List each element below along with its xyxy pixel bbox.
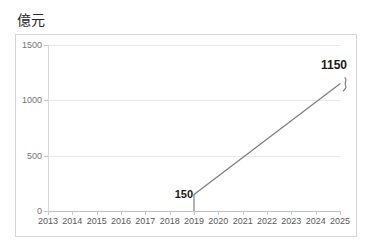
x-tick-mark-2015 — [97, 211, 98, 215]
x-tick-label-2013: 2013 — [38, 216, 58, 226]
x-tick-label-2016: 2016 — [111, 216, 131, 226]
gridline-1000 — [48, 100, 340, 101]
x-tick-mark-2016 — [121, 211, 122, 215]
x-tick-label-2021: 2021 — [233, 216, 253, 226]
x-tick-label-2019: 2019 — [184, 216, 204, 226]
y-tick-label-500: 500 — [0, 151, 42, 161]
y-tick-mark-1000 — [44, 100, 48, 101]
x-tick-label-2020: 2020 — [208, 216, 228, 226]
x-tick-label-2022: 2022 — [257, 216, 277, 226]
y-tick-label-1000: 1000 — [0, 95, 42, 105]
x-tick-mark-2017 — [145, 211, 146, 215]
x-tick-mark-2019 — [194, 211, 195, 215]
x-tick-label-2023: 2023 — [281, 216, 301, 226]
x-tick-mark-2024 — [316, 211, 317, 215]
data-label-end: 1150 — [321, 58, 347, 72]
x-tick-label-2024: 2024 — [306, 216, 326, 226]
y-axis-line — [48, 45, 49, 212]
x-tick-mark-2022 — [267, 211, 268, 215]
x-tick-label-2018: 2018 — [160, 216, 180, 226]
y-axis-unit-label: 億元 — [17, 11, 45, 29]
data-label-start: 150 — [175, 188, 193, 200]
x-tick-mark-2018 — [170, 211, 171, 215]
gridline-500 — [48, 156, 340, 157]
y-tick-mark-500 — [44, 156, 48, 157]
y-tick-mark-1500 — [44, 45, 48, 46]
x-tick-label-2025: 2025 — [330, 216, 350, 226]
chart-frame — [15, 34, 357, 237]
x-tick-mark-2014 — [72, 211, 73, 215]
x-tick-mark-2013 — [48, 211, 49, 215]
x-tick-mark-2023 — [291, 211, 292, 215]
x-tick-label-2014: 2014 — [62, 216, 82, 226]
y-tick-label-0: 0 — [0, 206, 42, 216]
y-tick-label-1500: 1500 — [0, 40, 42, 50]
x-tick-label-2015: 2015 — [87, 216, 107, 226]
x-tick-mark-2025 — [340, 211, 341, 215]
x-tick-label-2017: 2017 — [135, 216, 155, 226]
gridline-1500 — [48, 45, 340, 46]
x-tick-mark-2021 — [243, 211, 244, 215]
x-tick-mark-2020 — [218, 211, 219, 215]
chart-root: 億元 150010005000 201320142015201620172018… — [0, 0, 369, 249]
